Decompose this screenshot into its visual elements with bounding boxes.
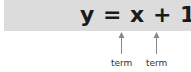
arrow-up-icon [117, 32, 126, 54]
term-label-1: term [146, 58, 167, 68]
equation-text: y = x + 1 [80, 2, 191, 27]
arrow-up-icon [152, 32, 161, 54]
term-label-x: term [111, 58, 132, 68]
